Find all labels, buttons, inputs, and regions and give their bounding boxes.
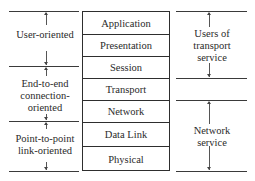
arrow-up-icon xyxy=(44,122,48,125)
arrow-down-icon xyxy=(207,167,211,170)
layer-label: Data Link xyxy=(105,129,147,140)
arrow-down-icon xyxy=(44,117,48,120)
arrow-down-icon xyxy=(44,167,48,170)
layer-session: Session xyxy=(83,57,169,79)
label-line: Users of xyxy=(174,28,250,40)
layer-label: Application xyxy=(101,18,151,29)
osi-layer-stack: Application Presentation Session Transpo… xyxy=(82,11,170,171)
right-divider-top xyxy=(176,11,247,12)
arrow-up-icon xyxy=(207,101,211,104)
label-line: connection- xyxy=(5,90,85,102)
layer-label: Physical xyxy=(108,154,144,165)
label-text: User-oriented xyxy=(16,29,74,40)
layer-physical: Physical xyxy=(83,147,169,171)
layer-presentation: Presentation xyxy=(83,35,169,57)
layer-label: Transport xyxy=(106,84,146,95)
group-label-network-service: Network service xyxy=(174,125,250,149)
layer-label: Session xyxy=(110,62,142,73)
label-line: Network xyxy=(174,125,250,137)
label-line: link-oriented xyxy=(3,145,87,157)
layer-label: Presentation xyxy=(100,40,152,51)
arrow-down-icon xyxy=(207,74,211,77)
label-line: Point-to-point xyxy=(3,133,87,145)
label-line: service xyxy=(174,52,250,64)
layer-network: Network xyxy=(83,101,169,123)
right-divider-network-start xyxy=(176,100,247,101)
left-divider-bottom xyxy=(9,171,79,172)
group-label-end-to-end: End-to-end connection- oriented xyxy=(5,78,85,114)
arrow-down-icon xyxy=(44,62,48,65)
label-line: service xyxy=(174,137,250,149)
label-line: transport xyxy=(174,40,250,52)
label-line: oriented xyxy=(5,102,85,114)
arrow-up-icon xyxy=(207,12,211,15)
layer-application: Application xyxy=(83,12,169,35)
arrow-up-icon xyxy=(44,12,48,15)
group-label-users-of-transport: Users of transport service xyxy=(174,28,250,64)
group-label-user-oriented: User-oriented xyxy=(5,29,85,41)
layer-transport: Transport xyxy=(83,79,169,101)
right-arrow-shaft-1a xyxy=(209,13,210,27)
right-divider-bottom xyxy=(176,171,247,172)
right-arrow-shaft-2a xyxy=(209,102,210,124)
arrow-up-icon xyxy=(44,67,48,70)
layer-label: Network xyxy=(108,106,145,117)
group-label-point-to-point: Point-to-point link-oriented xyxy=(3,133,87,157)
layer-data-link: Data Link xyxy=(83,123,169,147)
right-divider-users-end xyxy=(176,78,247,79)
label-line: End-to-end xyxy=(5,78,85,90)
